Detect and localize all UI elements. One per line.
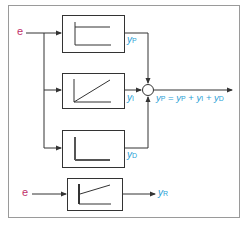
d-block — [63, 131, 125, 168]
subscript: D — [219, 95, 224, 102]
subscript: P — [132, 37, 137, 44]
subscript: R — [163, 190, 168, 197]
output-label-yp: yP — [127, 34, 137, 45]
i-block — [63, 74, 125, 109]
subscript: I — [201, 95, 203, 102]
output-label-yi: yI — [127, 92, 134, 103]
summing-junction — [143, 85, 154, 96]
summing-lines — [125, 33, 232, 148]
pid-diagram — [0, 0, 247, 226]
equiv-input-label-e: e — [22, 186, 28, 198]
plus-sign: + — [206, 92, 212, 103]
subscript: P — [161, 95, 166, 102]
input-label-e: e — [17, 25, 23, 37]
output-label-yd: yD — [127, 149, 137, 160]
subscript: I — [132, 95, 134, 102]
subscript: P — [181, 95, 186, 102]
plus-sign: + — [188, 92, 194, 103]
output-label-yr: yR — [158, 187, 168, 198]
equals-sign: = — [168, 92, 174, 103]
subscript: D — [132, 152, 137, 159]
sum-equation: yP = yP + yI + yD — [156, 92, 224, 103]
input-branch — [26, 33, 61, 148]
pid-block — [68, 179, 123, 211]
p-block — [63, 16, 125, 53]
